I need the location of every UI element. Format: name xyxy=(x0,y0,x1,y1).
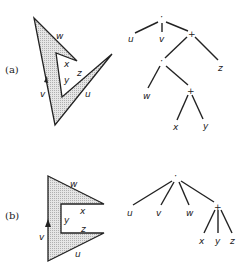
tree-b-node-x: x xyxy=(198,236,205,246)
edge-label-y: y xyxy=(63,215,70,225)
edge-label-v: v xyxy=(39,232,45,242)
tree-a-node-v: v xyxy=(159,34,165,44)
edge-label-x: x xyxy=(79,206,86,216)
edge-label-w: w xyxy=(70,179,78,189)
tree-a-node-times: · xyxy=(160,56,163,66)
tree-a-node-u: u xyxy=(128,34,134,44)
edge-label-u: u xyxy=(75,249,81,259)
tree-a-node-y: y xyxy=(202,121,209,131)
tree-a-node-x: x xyxy=(172,122,179,132)
edge-label-z: z xyxy=(80,224,86,234)
figure-b-tag: (b) xyxy=(5,210,19,221)
tree-a-node-w: w xyxy=(143,91,151,101)
edge-label-y: y xyxy=(63,75,70,85)
edge-label-w: w xyxy=(56,31,64,41)
tree-b-root: · xyxy=(174,171,177,181)
polygon-tree-diagram: (a) w x y z u v · u v + · z w + x y (b) … xyxy=(0,0,242,270)
edge-label-x: x xyxy=(63,59,70,69)
figure-a-tag: (a) xyxy=(5,64,19,75)
tree-a-root: · xyxy=(160,12,163,22)
polygon-a xyxy=(34,18,112,125)
edge-label-z: z xyxy=(76,68,82,78)
tree-b-node-u: u xyxy=(127,208,133,218)
tree-a-node-plus: + xyxy=(188,29,196,39)
tree-b-node-w: w xyxy=(186,208,194,218)
tree-b-node-z: z xyxy=(229,236,235,246)
edge-label-u: u xyxy=(85,89,91,99)
tree-b: · u v w + x y z xyxy=(127,171,235,246)
tree-b-node-plus: + xyxy=(214,202,222,212)
tree-a: · u v + · z w + x y xyxy=(128,12,223,132)
tree-a-node-plus2: + xyxy=(187,86,195,96)
edge-label-v: v xyxy=(40,89,46,99)
tree-b-node-y: y xyxy=(214,236,221,246)
tree-a-node-z: z xyxy=(217,63,223,73)
tree-b-node-v: v xyxy=(156,208,162,218)
